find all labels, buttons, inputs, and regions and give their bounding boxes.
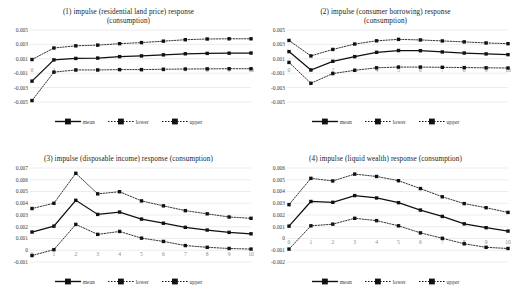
legend-item-lower: lower bbox=[365, 278, 406, 285]
data-point-lower bbox=[397, 224, 400, 227]
y-tick-label: -0.001 bbox=[271, 70, 285, 76]
x-tick-label: 3 bbox=[353, 239, 356, 245]
chart-4-legend: mean lower upper bbox=[257, 278, 514, 285]
y-tick-label: 0.005 bbox=[273, 27, 285, 33]
y-tick-label: 0.001 bbox=[273, 224, 285, 230]
data-point-upper bbox=[441, 195, 444, 198]
y-tick-label: 0 bbox=[25, 247, 28, 253]
x-tick-label: 3 bbox=[96, 251, 99, 257]
data-point-upper bbox=[118, 190, 121, 193]
y-tick-label: -0.005 bbox=[14, 99, 28, 105]
data-point-upper bbox=[162, 204, 165, 207]
legend-swatch-mean-icon bbox=[55, 278, 81, 285]
data-point-mean bbox=[227, 51, 230, 54]
x-tick-label: 0 bbox=[288, 239, 291, 245]
x-tick-label: 5 bbox=[140, 251, 143, 257]
y-tick-label: -0.005 bbox=[271, 99, 285, 105]
data-point-mean bbox=[375, 196, 378, 199]
y-tick-label: -0.001 bbox=[271, 247, 285, 253]
data-point-upper bbox=[287, 39, 290, 42]
y-tick-label: 0.003 bbox=[16, 212, 28, 218]
legend-item-upper: upper bbox=[419, 278, 460, 285]
legend-label-lower: lower bbox=[136, 279, 149, 285]
legend-swatch-lower-icon bbox=[365, 118, 391, 125]
x-tick-label: 0 bbox=[31, 67, 34, 73]
x-tick-label: 2 bbox=[74, 251, 77, 257]
data-point-upper bbox=[375, 39, 378, 42]
series-line-lower bbox=[32, 69, 251, 101]
data-point-upper bbox=[140, 199, 143, 202]
legend-swatch-upper-icon bbox=[162, 118, 188, 125]
data-point-lower bbox=[96, 233, 99, 236]
y-tick-label: -0.002 bbox=[271, 259, 285, 265]
data-point-mean bbox=[30, 230, 33, 233]
chart-4-plot: 0.0060.0050.0040.0030.0020.0010-0.001-0.… bbox=[257, 164, 514, 276]
data-point-upper bbox=[74, 44, 77, 47]
y-tick-label: 0.004 bbox=[16, 200, 28, 206]
chart-panel-3: (3) impulse (disposable income) response… bbox=[0, 150, 257, 301]
legend-label-upper: upper bbox=[447, 119, 460, 125]
data-point-mean bbox=[441, 215, 444, 218]
data-point-lower bbox=[287, 61, 290, 64]
legend-swatch-upper-icon bbox=[419, 118, 445, 125]
data-point-mean bbox=[162, 53, 165, 56]
data-point-mean bbox=[184, 52, 187, 55]
data-point-upper bbox=[227, 37, 230, 40]
series-line-mean bbox=[32, 200, 251, 233]
legend-swatch-mean-icon bbox=[312, 278, 338, 285]
data-point-upper bbox=[353, 172, 356, 175]
data-point-upper bbox=[463, 202, 466, 205]
chart-4-svg: 0.0060.0050.0040.0030.0020.0010-0.001-0.… bbox=[257, 164, 514, 276]
data-point-mean bbox=[463, 222, 466, 225]
data-point-upper bbox=[140, 41, 143, 44]
y-tick-label: 0.003 bbox=[273, 200, 285, 206]
data-point-mean bbox=[287, 50, 290, 53]
chart-2-svg: 0.0050.0030.001-0.001-0.003-0.0050123456… bbox=[257, 26, 514, 116]
data-point-upper bbox=[52, 46, 55, 49]
data-point-mean bbox=[249, 51, 252, 54]
legend-label-lower: lower bbox=[393, 119, 406, 125]
y-tick-label: 0.003 bbox=[16, 41, 28, 47]
y-tick-label: -0.003 bbox=[271, 85, 285, 91]
data-point-lower bbox=[353, 69, 356, 72]
data-point-lower bbox=[484, 246, 487, 249]
legend-item-lower: lower bbox=[108, 278, 149, 285]
data-point-lower bbox=[227, 67, 230, 70]
data-point-lower bbox=[52, 248, 55, 251]
x-tick-label: 9 bbox=[228, 251, 231, 257]
legend-swatch-upper-icon bbox=[162, 278, 188, 285]
x-tick-label: 4 bbox=[118, 251, 121, 257]
legend-swatch-lower-icon bbox=[108, 278, 134, 285]
x-tick-label: 9 bbox=[485, 239, 488, 245]
chart-1-title: (1) impulse (residential land price) res… bbox=[0, 0, 257, 26]
chart-3-legend: mean lower upper bbox=[0, 278, 257, 285]
data-point-lower bbox=[353, 217, 356, 220]
chart-4-title: (4) impulse (liquid wealth) response (co… bbox=[257, 150, 514, 164]
x-tick-label: 1 bbox=[53, 251, 56, 257]
y-tick-label: 0.002 bbox=[16, 224, 28, 230]
x-tick-label: 4 bbox=[375, 239, 378, 245]
data-point-mean bbox=[140, 54, 143, 57]
x-tick-label: 7 bbox=[184, 251, 187, 257]
data-point-mean bbox=[206, 228, 209, 231]
chart-1-legend: mean lower upper bbox=[0, 118, 257, 125]
data-point-lower bbox=[463, 242, 466, 245]
data-point-mean bbox=[52, 224, 55, 227]
legend-swatch-lower-icon bbox=[365, 278, 391, 285]
data-point-upper bbox=[118, 42, 121, 45]
chart-panel-1: (1) impulse (residential land price) res… bbox=[0, 0, 257, 150]
data-point-mean bbox=[249, 232, 252, 235]
data-point-upper bbox=[397, 38, 400, 41]
y-tick-label: 0.004 bbox=[273, 188, 285, 194]
legend-swatch-upper-icon bbox=[419, 278, 445, 285]
data-point-lower bbox=[227, 247, 230, 250]
data-point-mean bbox=[206, 52, 209, 55]
data-point-upper bbox=[463, 40, 466, 43]
y-tick-label: 0.003 bbox=[273, 41, 285, 47]
data-point-lower bbox=[162, 68, 165, 71]
data-point-mean bbox=[184, 226, 187, 229]
data-point-upper bbox=[309, 177, 312, 180]
y-tick-label: 0.001 bbox=[273, 56, 285, 62]
data-point-upper bbox=[331, 48, 334, 51]
data-point-lower bbox=[287, 247, 290, 250]
